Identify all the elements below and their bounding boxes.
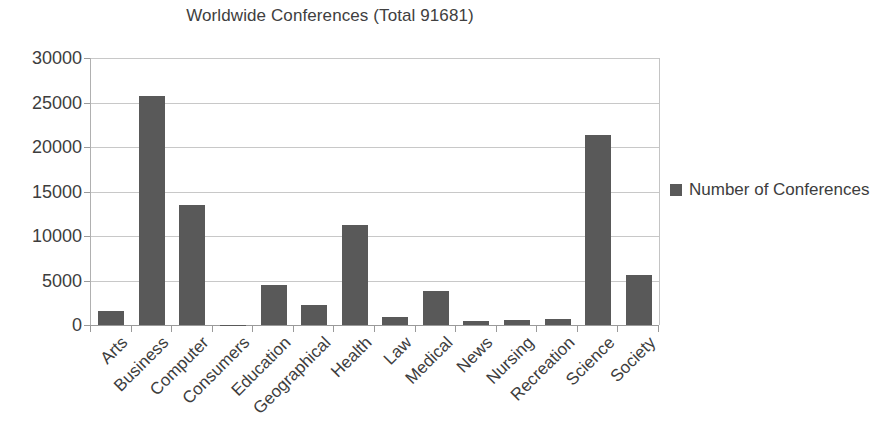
bar-slot bbox=[497, 58, 538, 325]
y-axis-tick-label: 0 bbox=[72, 315, 82, 336]
bar-slot bbox=[416, 58, 457, 325]
y-axis-tick-label: 10000 bbox=[32, 226, 82, 247]
bar-health[interactable] bbox=[342, 225, 368, 325]
bar-slot bbox=[456, 58, 497, 325]
plot-area bbox=[90, 58, 660, 325]
x-axis-label-society: Society bbox=[606, 333, 660, 387]
chart-legend: Number of Conferences bbox=[670, 180, 869, 200]
x-axis-tick bbox=[415, 325, 416, 332]
chart-title: Worldwide Conferences (Total 91681) bbox=[0, 6, 660, 26]
x-axis-tick bbox=[212, 325, 213, 332]
y-axis-tick-label: 5000 bbox=[42, 270, 82, 291]
x-axis-tick bbox=[496, 325, 497, 332]
x-axis-tick bbox=[577, 325, 578, 332]
y-axis-tick-label: 25000 bbox=[32, 92, 82, 113]
x-axis-ticks bbox=[90, 325, 658, 333]
bar-slot bbox=[578, 58, 619, 325]
bar-slot bbox=[172, 58, 213, 325]
legend-swatch-number-of-conferences bbox=[670, 184, 682, 196]
bar-education[interactable] bbox=[261, 285, 287, 325]
bar-arts[interactable] bbox=[98, 311, 124, 325]
bar-slot bbox=[537, 58, 578, 325]
bars-group bbox=[91, 58, 659, 325]
x-axis-label-health: Health bbox=[327, 333, 376, 382]
x-axis-tick bbox=[658, 325, 659, 332]
bar-business[interactable] bbox=[139, 96, 165, 325]
bar-computer[interactable] bbox=[179, 205, 205, 325]
x-axis-tick bbox=[374, 325, 375, 332]
bar-slot bbox=[132, 58, 173, 325]
x-axis-tick bbox=[90, 325, 91, 332]
bar-science[interactable] bbox=[585, 135, 611, 325]
x-axis-tick bbox=[617, 325, 618, 332]
bar-slot bbox=[375, 58, 416, 325]
y-axis-labels: 050001000015000200002500030000 bbox=[0, 58, 82, 325]
x-axis-tick bbox=[455, 325, 456, 332]
legend-label-number-of-conferences: Number of Conferences bbox=[689, 180, 869, 200]
bar-slot bbox=[294, 58, 335, 325]
x-axis-tick bbox=[536, 325, 537, 332]
bar-law[interactable] bbox=[382, 317, 408, 325]
y-axis-tick-label: 30000 bbox=[32, 48, 82, 69]
x-axis-tick bbox=[252, 325, 253, 332]
x-axis-tick bbox=[293, 325, 294, 332]
bar-slot bbox=[253, 58, 294, 325]
x-axis-tick bbox=[131, 325, 132, 332]
y-axis-tick-label: 20000 bbox=[32, 137, 82, 158]
bar-society[interactable] bbox=[626, 275, 652, 325]
bar-slot bbox=[213, 58, 254, 325]
x-axis-tick bbox=[333, 325, 334, 332]
bar-slot bbox=[91, 58, 132, 325]
x-axis-tick bbox=[171, 325, 172, 332]
x-axis-labels: ArtsBusinessComputerConsumersEducationGe… bbox=[90, 333, 690, 445]
y-axis-tick-label: 15000 bbox=[32, 181, 82, 202]
bar-slot bbox=[618, 58, 659, 325]
bar-medical[interactable] bbox=[423, 291, 449, 325]
bar-chart: Worldwide Conferences (Total 91681) 0500… bbox=[0, 0, 892, 445]
bar-geographical[interactable] bbox=[301, 305, 327, 325]
bar-slot bbox=[334, 58, 375, 325]
